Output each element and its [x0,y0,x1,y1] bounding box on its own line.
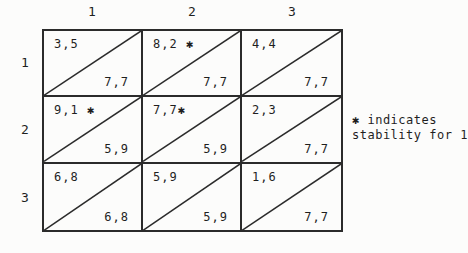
cell-r1c1: 3,5 7,7 [44,31,143,97]
payoff-top-left: 4,4 [252,37,277,51]
row-header-1: 1 [14,55,36,70]
payoff-top-left: 8,2 ✱ [153,37,194,51]
cell-r1c2: 8,2 ✱ 7,7 [143,31,242,97]
payoff-bottom-right: 7,7 [304,75,329,89]
col-header-1: 1 [42,4,142,19]
cell-r3c2: 5,9 5,9 [143,164,242,230]
cell-r3c3: 1,6 7,7 [242,164,341,230]
payoff-bottom-right: 7,7 [104,75,129,89]
payoff-bottom-right: 7,7 [203,75,228,89]
cell-r2c2: 7,7✱ 5,9 [143,97,242,163]
stability-note: ✱ indicates stability for 1 [352,113,468,143]
payoff-bottom-right: 7,7 [304,142,329,156]
payoff-top-left: 5,9 [153,170,178,184]
col-header-3: 3 [242,4,342,19]
payoff-top-left: 6,8 [54,170,79,184]
cell-r2c1: 9,1 ✱ 5,9 [44,97,143,163]
row-header-3: 3 [14,190,36,205]
game-matrix: 3,5 7,7 8,2 ✱ 7,7 4,4 7,7 9,1 ✱ 5,9 7,7✱… [42,29,343,232]
cell-r1c3: 4,4 7,7 [242,31,341,97]
stability-note-line2: stability for 1 [352,128,468,143]
payoff-bottom-right: 7,7 [304,210,329,224]
stability-note-line1: ✱ indicates [352,113,468,128]
payoff-top-left: 3,5 [54,37,79,51]
payoff-bottom-right: 5,9 [203,142,228,156]
cell-r2c3: 2,3 7,7 [242,97,341,163]
payoff-top-left: 2,3 [252,103,277,117]
payoff-bottom-right: 5,9 [203,210,228,224]
payoff-bottom-right: 6,8 [104,210,129,224]
cell-r3c1: 6,8 6,8 [44,164,143,230]
payoff-bottom-right: 5,9 [104,142,129,156]
payoff-top-left: 9,1 ✱ [54,103,95,117]
payoff-top-left: 1,6 [252,170,277,184]
row-header-2: 2 [14,122,36,137]
col-header-2: 2 [142,4,242,19]
payoff-top-left: 7,7✱ [153,103,186,117]
